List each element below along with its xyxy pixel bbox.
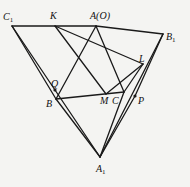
label-q: Q — [51, 78, 59, 89]
label-c: C — [112, 95, 119, 106]
segment-c1-a1 — [12, 26, 100, 157]
label-c1: C1 — [3, 11, 14, 24]
segment-a-b1 — [96, 26, 163, 34]
label-k: K — [49, 10, 58, 21]
segment-b-a1 — [56, 99, 100, 157]
point-p-dot — [133, 94, 136, 97]
label-b1: B1 — [166, 31, 176, 44]
segment-b1-p — [135, 34, 163, 96]
segment-a-b — [56, 26, 96, 99]
label-m: M — [99, 95, 109, 106]
diagram-svg: C1KA(O)B1LQBMCPA1 — [0, 0, 190, 187]
segment-c1-b — [12, 26, 56, 99]
label-a1: A1 — [95, 163, 106, 176]
segment-b1-a1 — [100, 34, 163, 157]
label-b: B — [46, 98, 52, 109]
label-a: A(O) — [89, 10, 111, 22]
segment-k-m — [55, 26, 106, 94]
segments — [12, 26, 163, 157]
label-p: P — [137, 95, 144, 106]
geometry-diagram: C1KA(O)B1LQBMCPA1 — [0, 0, 190, 187]
label-l: L — [138, 53, 145, 64]
point-labels: C1KA(O)B1LQBMCPA1 — [3, 10, 176, 176]
